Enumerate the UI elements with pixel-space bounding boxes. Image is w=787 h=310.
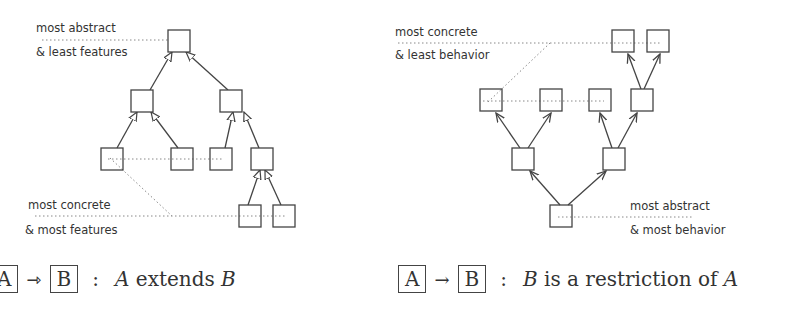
node <box>631 89 653 111</box>
node-root <box>168 30 190 52</box>
right-legend: A → B : B is a restriction of A <box>398 265 738 293</box>
node <box>480 89 502 111</box>
left-top-label-1: most abstract <box>36 21 116 35</box>
hollow-arrow-icon: ⇾ <box>26 269 41 290</box>
left-nodes <box>101 30 295 227</box>
left-guides <box>35 40 286 216</box>
legend-var-a: A <box>115 267 129 291</box>
node <box>131 90 153 112</box>
node <box>540 89 562 111</box>
node <box>612 30 634 52</box>
legend-text: is a restriction of <box>538 267 724 291</box>
node <box>603 148 625 170</box>
left-edges <box>117 52 281 205</box>
right-top-label-2: & least behavior <box>395 48 490 62</box>
legend-box-b: B <box>50 265 79 293</box>
left-legend: A ⇾ B : A extends B <box>0 265 236 293</box>
legend-var-b: B <box>523 267 538 291</box>
legend-text: extends <box>129 267 221 291</box>
node-root <box>550 205 572 227</box>
legend-var-a: A <box>724 267 738 291</box>
right-nodes <box>480 30 669 227</box>
legend-colon: : <box>92 267 99 291</box>
legend-box-b: B <box>458 265 487 293</box>
node <box>220 90 242 112</box>
right-edges <box>496 54 660 205</box>
right-bottom-label-2: & most behavior <box>630 223 726 237</box>
legend-box-a: A <box>398 265 426 293</box>
legend-var-b: B <box>221 267 236 291</box>
left-bottom-label-2: & most features <box>25 223 118 237</box>
right-bottom-label-1: most abstract <box>630 199 710 213</box>
node <box>512 148 534 170</box>
right-top-label-1: most concrete <box>395 25 478 39</box>
arrow-icon: → <box>434 269 449 290</box>
legend-colon: : <box>500 267 507 291</box>
node <box>239 205 261 227</box>
node <box>251 148 273 170</box>
legend-box-a: A <box>0 265 18 293</box>
node <box>647 30 669 52</box>
left-top-label-2: & least features <box>36 45 128 59</box>
left-bottom-label-1: most concrete <box>28 198 111 212</box>
node <box>589 89 611 111</box>
node <box>171 148 193 170</box>
right-guides <box>398 43 692 217</box>
